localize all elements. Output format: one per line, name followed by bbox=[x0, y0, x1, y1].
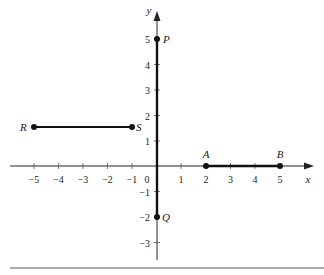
x-axis-label: x bbox=[305, 173, 311, 185]
y-tick-labels: 5 4 3 2 1 −1 −2 −3 bbox=[139, 34, 150, 249]
point-b bbox=[277, 163, 283, 169]
point-label-r: R bbox=[19, 121, 27, 133]
y-tick-label: 1 bbox=[145, 136, 150, 147]
x-tick-label: −3 bbox=[78, 174, 89, 185]
y-tick-label: 2 bbox=[145, 111, 150, 122]
y-axis-label: y bbox=[146, 4, 152, 16]
x-tick-label: 0 bbox=[145, 174, 150, 185]
y-tick-label: −1 bbox=[139, 187, 150, 198]
point-label-s: S bbox=[136, 121, 142, 133]
point-r bbox=[31, 124, 37, 130]
x-tick-label: 2 bbox=[204, 174, 209, 185]
x-tick-labels: −5 −4 −3 −2 −1 0 1 2 3 4 5 bbox=[29, 174, 283, 185]
coordinate-plane: −5 −4 −3 −2 −1 0 1 2 3 4 5 x 5 4 3 2 1 −… bbox=[0, 0, 324, 275]
x-tick-label: −2 bbox=[102, 174, 113, 185]
y-tick-label: −3 bbox=[139, 238, 150, 249]
point-label-a: A bbox=[202, 148, 210, 160]
x-tick-label: 4 bbox=[253, 174, 258, 185]
x-tick-label: −5 bbox=[29, 174, 40, 185]
x-tick-label: 5 bbox=[278, 174, 283, 185]
point-a bbox=[203, 163, 209, 169]
point-s bbox=[129, 124, 135, 130]
point-q bbox=[154, 214, 160, 220]
y-axis-arrow-icon bbox=[154, 11, 161, 21]
point-p bbox=[154, 36, 160, 42]
x-tick-label: −1 bbox=[127, 174, 138, 185]
point-label-q: Q bbox=[162, 211, 170, 223]
x-tick-label: 3 bbox=[228, 174, 233, 185]
x-axis-arrow-icon bbox=[304, 163, 314, 170]
point-label-p: P bbox=[162, 33, 170, 45]
point-label-b: B bbox=[277, 148, 284, 160]
x-tick-label: 1 bbox=[179, 174, 184, 185]
y-tick-label: −2 bbox=[139, 212, 150, 223]
y-tick-label: 4 bbox=[145, 60, 150, 71]
x-tick-label: −4 bbox=[53, 174, 64, 185]
y-tick-label: 5 bbox=[145, 34, 150, 45]
y-tick-label: 3 bbox=[145, 85, 150, 96]
